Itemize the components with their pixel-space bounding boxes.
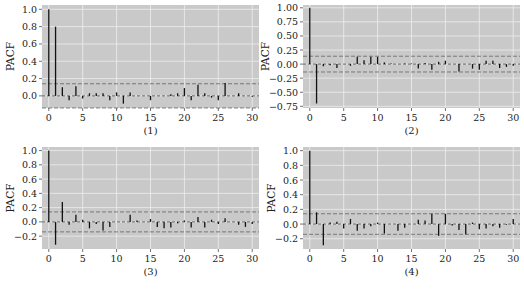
x-tick-label: 0 [307, 253, 313, 264]
x-tick-label: 10 [111, 253, 123, 264]
panel-caption: (3) [143, 266, 157, 277]
y-axis-label: PACF [265, 183, 277, 212]
y-axis-label: PACF [4, 183, 16, 212]
x-tick-label: 30 [246, 253, 258, 264]
y-axis-label: PACF [4, 42, 16, 71]
y-tick-label: 0.2 [283, 204, 298, 215]
y-axis-label: PACF [259, 42, 271, 71]
x-tick-label: 5 [341, 112, 347, 123]
x-tick-label: 15 [144, 112, 156, 123]
y-tick-label: −0.2 [275, 233, 298, 244]
y-tick-label: 0.4 [283, 189, 298, 200]
x-tick-label: 15 [144, 253, 156, 264]
x-tick-label: 30 [507, 253, 519, 264]
y-tick-label: 0.25 [277, 45, 298, 56]
panel-caption: (1) [143, 125, 157, 136]
y-tick-label: −0.50 [269, 87, 298, 98]
y-tick-label: 0.8 [22, 159, 37, 170]
x-tick-label: 25 [212, 253, 224, 264]
x-tick-label: 5 [341, 253, 347, 264]
y-tick-label: 1.0 [22, 145, 37, 156]
y-tick-label: 0.6 [22, 38, 37, 49]
x-tick-label: 10 [372, 112, 384, 123]
x-tick-label: 10 [111, 112, 123, 123]
x-tick-label: 25 [473, 112, 485, 123]
pacf-panel-4: −0.20.00.20.40.60.81.0051015202530PACF(4… [265, 145, 520, 277]
x-tick-label: 25 [473, 253, 485, 264]
x-tick-label: 5 [80, 112, 86, 123]
x-tick-label: 20 [178, 253, 190, 264]
y-tick-label: 0.8 [283, 160, 298, 171]
panel-caption: (4) [404, 266, 418, 277]
x-tick-label: 0 [46, 253, 52, 264]
y-tick-label: 0.75 [277, 16, 298, 27]
pacf-panel-1: 0.00.20.40.60.81.0051015202530PACF(1) [4, 4, 259, 136]
y-tick-label: 0.4 [22, 188, 37, 199]
y-tick-label: 0.50 [277, 30, 298, 41]
y-tick-label: 1.0 [22, 4, 37, 15]
x-tick-label: 10 [372, 253, 384, 264]
y-tick-label: −0.75 [269, 101, 298, 112]
x-tick-label: 20 [178, 112, 190, 123]
x-tick-label: 30 [246, 112, 258, 123]
panel-caption: (2) [404, 125, 418, 136]
x-tick-label: 20 [439, 253, 451, 264]
y-tick-label: 0.2 [22, 202, 37, 213]
pacf-panel-2: −0.75−0.50−0.250.000.250.500.751.0005101… [259, 2, 520, 136]
y-tick-label: 0.2 [22, 73, 37, 84]
y-tick-label: 0.4 [22, 56, 37, 67]
x-tick-label: 30 [507, 112, 519, 123]
y-tick-label: 0.00 [277, 59, 298, 70]
x-tick-label: 0 [307, 112, 313, 123]
y-tick-label: −0.25 [269, 73, 298, 84]
x-tick-label: 5 [80, 253, 86, 264]
y-tick-label: −0.2 [14, 231, 37, 242]
pacf-figure: 0.00.20.40.60.81.0051015202530PACF(1)−0.… [0, 0, 524, 289]
y-tick-label: 0.8 [22, 21, 37, 32]
y-tick-label: 1.0 [283, 145, 298, 156]
pacf-panel-3: −0.20.00.20.40.60.81.0051015202530PACF(3… [4, 145, 259, 277]
x-tick-label: 15 [405, 253, 417, 264]
y-tick-label: 1.00 [277, 2, 298, 13]
y-tick-label: 0.0 [22, 216, 37, 227]
y-tick-label: 0.0 [283, 219, 298, 230]
x-tick-label: 0 [46, 112, 52, 123]
x-tick-label: 20 [439, 112, 451, 123]
x-tick-label: 25 [212, 112, 224, 123]
y-tick-label: 0.6 [22, 174, 37, 185]
y-tick-label: 0.6 [283, 175, 298, 186]
x-tick-label: 15 [405, 112, 417, 123]
figure-svg: 0.00.20.40.60.81.0051015202530PACF(1)−0.… [0, 0, 524, 289]
y-tick-label: 0.0 [22, 90, 37, 101]
